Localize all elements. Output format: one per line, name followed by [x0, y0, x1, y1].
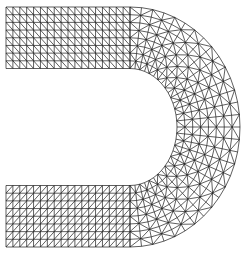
mesh-figure: [0, 0, 248, 254]
mesh-edges: [6, 7, 240, 247]
triangular-mesh-diagram: [0, 0, 248, 254]
mesh-lines: [6, 7, 240, 247]
